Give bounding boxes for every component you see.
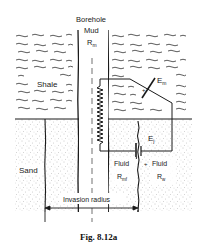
- sp-circuit-diagram: + + Borehole Mud Rm Shale Sand Em Ej Flu…: [0, 0, 202, 251]
- invasion-radius-dimension: [45, 206, 138, 222]
- mud-label: Mud: [84, 26, 99, 35]
- sand-label: Sand: [19, 166, 38, 175]
- filtrate-fluid-label: Fluid: [114, 160, 129, 167]
- invasion-radius-label: Invasion radius: [63, 196, 111, 203]
- em-polarity: +: [142, 87, 146, 93]
- borehole-label: Borehole: [76, 15, 106, 24]
- formation-fluid-label: Fluid: [152, 160, 167, 167]
- figure-caption: Fig. 8.12a: [80, 232, 118, 242]
- ej-polarity: +: [144, 161, 148, 167]
- shale-label: Shale: [37, 80, 58, 89]
- borehole-left-wall: [78, 30, 79, 212]
- em-label: Em: [157, 76, 167, 86]
